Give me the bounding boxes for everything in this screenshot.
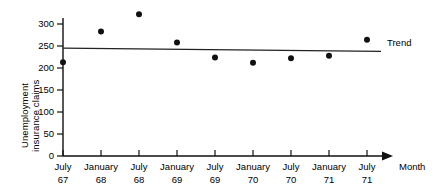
x-tick-label-4-month: July xyxy=(207,161,224,172)
x-axis-ticks xyxy=(63,150,367,156)
x-tick-label-8-year: 71 xyxy=(362,174,373,185)
data-point-8 xyxy=(364,37,370,43)
y-tick-label-250: 250 xyxy=(38,40,54,51)
trend-line xyxy=(63,48,381,51)
x-tick-label-6-month: July xyxy=(283,161,300,172)
data-points xyxy=(60,11,370,65)
data-point-4 xyxy=(212,54,218,60)
x-tick-label-2-year: 68 xyxy=(134,174,145,185)
y-tick-label-0: 0 xyxy=(49,150,54,161)
x-axis-arrow-icon xyxy=(382,152,393,161)
x-tick-label-7-year: 71 xyxy=(324,174,335,185)
data-point-7 xyxy=(326,53,332,59)
y-tick-label-200: 200 xyxy=(38,62,54,73)
x-tick-label-0-month: July xyxy=(55,161,72,172)
x-tick-label-7-month: January xyxy=(312,161,346,172)
x-tick-label-3-year: 69 xyxy=(172,174,183,185)
x-tick-label-1-month: January xyxy=(84,161,118,172)
trend-label: Trend xyxy=(387,37,411,48)
scatter-chart-svg: Unemployment insurance claims 0 50 100 1… xyxy=(0,0,435,191)
x-tick-label-5-month: January xyxy=(236,161,270,172)
y-tick-label-50: 50 xyxy=(43,128,54,139)
x-tick-label-5-year: 70 xyxy=(248,174,259,185)
data-point-6 xyxy=(288,55,294,61)
y-tick-label-150: 150 xyxy=(38,84,54,95)
x-tick-label-8-month: July xyxy=(359,161,376,172)
y-axis-title-line-1: Unemployment xyxy=(19,83,30,148)
x-tick-label-6-year: 70 xyxy=(286,174,297,185)
y-tick-label-100: 100 xyxy=(38,106,54,117)
x-tick-label-4-year: 69 xyxy=(210,174,221,185)
x-axis-tick-labels: July 67 January 68 July 68 January 69 Ju… xyxy=(55,161,376,185)
x-tick-label-1-year: 68 xyxy=(96,174,107,185)
data-point-1 xyxy=(98,29,104,35)
x-tick-label-2-month: July xyxy=(131,161,148,172)
x-axis-title: Month xyxy=(399,161,425,172)
x-tick-label-3-month: January xyxy=(160,161,194,172)
chart-figure: Unemployment insurance claims 0 50 100 1… xyxy=(0,0,435,191)
data-point-2 xyxy=(136,11,142,17)
data-point-5 xyxy=(250,60,256,66)
data-point-0 xyxy=(60,59,66,65)
data-point-3 xyxy=(174,40,180,46)
y-axis-ticks xyxy=(57,24,63,156)
x-tick-label-0-year: 67 xyxy=(58,174,69,185)
y-tick-label-300: 300 xyxy=(38,18,54,29)
